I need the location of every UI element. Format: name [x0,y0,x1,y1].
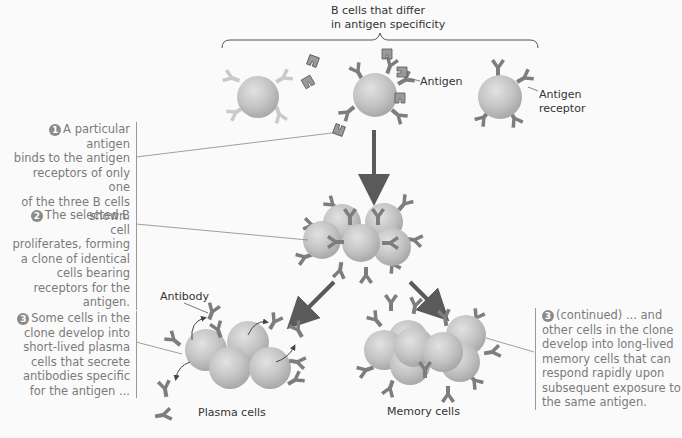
leader-step3 [136,342,182,354]
brace-label: B cells that differ in antigen specifici… [331,4,445,32]
caption-line: receptors of only one [8,166,130,195]
caption-line: memory cells that can [542,352,682,367]
caption-line: for the antigen ... [8,384,130,399]
brace-label-line: in antigen specificity [331,18,445,32]
step-number-badge: 3 [542,310,554,322]
caption-line: the same antigen. [542,395,682,410]
caption-line: (continued) ... and [556,308,662,322]
plasma-cells [154,301,308,423]
b-cell-clone [294,193,424,284]
caption-line: a clone of identical [8,252,130,267]
memory-cells-label: Memory cells [387,405,460,419]
caption-line: binds to the antigen [8,151,130,166]
caption-line: antigen. [8,295,130,310]
antigen-label: Antigen [420,75,463,89]
b-cell-nonmatching-right [473,59,538,129]
caption-line: cells that secrete [8,355,130,370]
leader-step2 [136,224,308,240]
step-3-continued-caption: 3(continued) ... and other cells in the … [535,308,682,410]
caption-line: other cells in the clone [542,323,682,338]
b-cell-selected [333,49,420,136]
step-number-badge: 2 [31,210,43,222]
caption-line: of the three B cells [8,195,130,210]
caption-line: respond rapidly upon [542,366,682,381]
b-cell-nonmatching-left [221,67,294,124]
caption-line: receptors for the [8,281,130,296]
caption-line: A particular antigen [63,122,130,151]
caption-line: clone develop into [8,326,130,341]
step-3-caption: 3Some cells in the clone develop into sh… [8,311,137,398]
step-2-caption: 2The selected B cell proliferates, formi… [8,208,137,310]
antigen-receptor-label: Antigen receptor [539,88,585,116]
antigen-receptor-label-line: Antigen [539,88,585,102]
caption-line: Some cells in the [31,311,130,325]
antigen-particle [307,55,320,68]
caption-line: short-lived plasma [8,340,130,355]
top-brace [222,33,538,48]
brace-label-line: B cells that differ [331,4,445,18]
plasma-cells-label: Plasma cells [198,406,266,420]
step-number-badge: 1 [49,124,61,136]
memory-cells [355,294,502,403]
caption-line: cells bearing [8,266,130,281]
leader-step1 [136,132,340,157]
caption-line: The selected B cell [45,208,130,237]
caption-line: antibodies specific [8,369,130,384]
caption-line: proliferates, forming [8,237,130,252]
caption-line: subsequent exposure to [542,381,682,396]
step-number-badge: 3 [17,313,29,325]
caption-line: develop into long-lived [542,337,682,352]
arrow-to-plasma [298,282,334,318]
antigen-receptor-label-line: receptor [539,102,585,116]
antibody-label: Antibody [160,290,209,304]
